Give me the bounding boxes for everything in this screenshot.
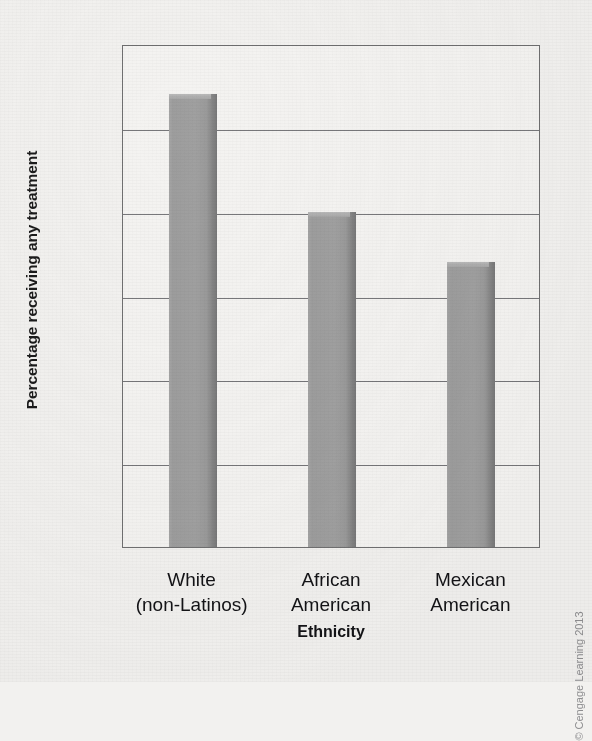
x-axis-title: Ethnicity xyxy=(122,623,540,641)
copyright-credit: © Cengage Learning 2013 xyxy=(568,552,590,682)
y-axis-title: Percentage receiving any treatment xyxy=(12,0,52,560)
x-axis-tick-label-line: American xyxy=(380,592,560,617)
y-axis-title-text: Percentage receiving any treatment xyxy=(23,151,41,410)
bar xyxy=(308,212,356,547)
copyright-credit-text: © Cengage Learning 2013 xyxy=(573,611,585,740)
x-axis-tick-label-line: Mexican xyxy=(380,567,560,592)
bar xyxy=(447,262,495,547)
x-axis-tick-label: MexicanAmerican xyxy=(380,567,560,617)
plot-area xyxy=(122,45,540,548)
bar xyxy=(169,94,217,547)
